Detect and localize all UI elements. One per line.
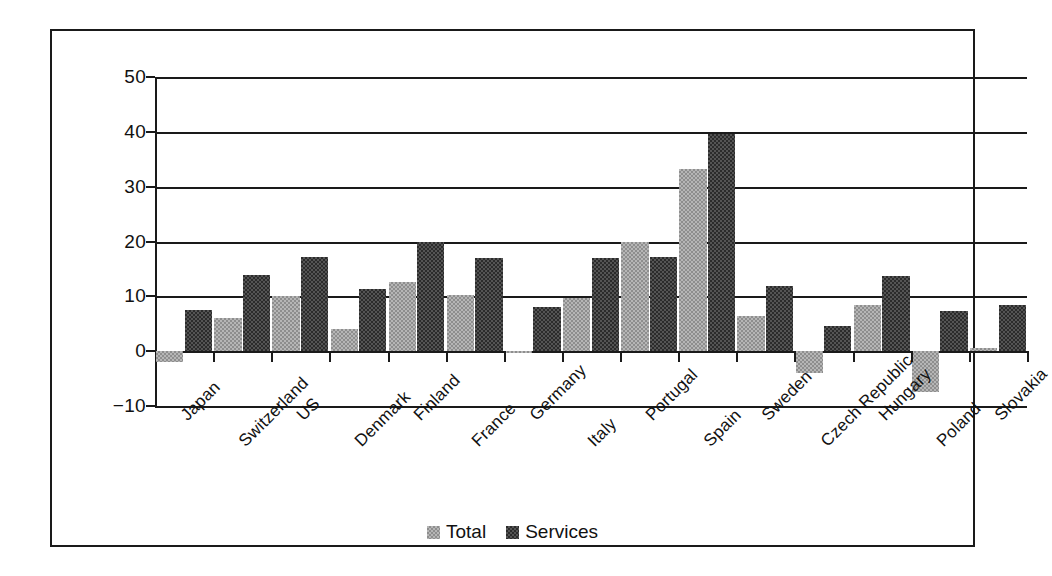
- bar-total[interactable]: [621, 242, 648, 351]
- bar-total[interactable]: [214, 318, 241, 351]
- y-axis-tick-label: 20: [124, 231, 146, 253]
- y-axis-tick-label: 0: [135, 340, 146, 362]
- y-axis-tick-mark: [146, 295, 155, 297]
- bar-total[interactable]: [679, 169, 706, 351]
- x-axis-label-spain: Spain: [700, 406, 746, 452]
- y-axis-tick-mark: [146, 241, 155, 243]
- x-axis-tick-mark: [736, 351, 738, 362]
- bar-services[interactable]: [475, 258, 502, 351]
- bar-services[interactable]: [359, 289, 386, 352]
- x-axis-label-italy: Italy: [584, 414, 621, 451]
- bar-total[interactable]: [272, 296, 299, 351]
- bar-services[interactable]: [301, 257, 328, 351]
- x-axis-tick-mark: [678, 351, 680, 362]
- chart-frame: 50403020100−10 JapanSwitzerlandUSDenmark…: [50, 29, 975, 547]
- bar-total[interactable]: [447, 295, 474, 351]
- x-axis-tick-mark: [853, 351, 855, 362]
- bar-total[interactable]: [737, 316, 764, 351]
- y-axis-tick-mark: [146, 131, 155, 133]
- x-axis-category-labels: JapanSwitzerlandUSDenmarkFinlandFranceGe…: [155, 411, 1027, 521]
- y-axis-tick-label: 50: [124, 66, 146, 88]
- bar-services[interactable]: [417, 242, 444, 351]
- x-axis-tick-mark: [794, 351, 796, 362]
- x-axis-tick-mark: [562, 351, 564, 362]
- bar-services[interactable]: [243, 275, 270, 351]
- x-axis-tick-mark: [388, 351, 390, 362]
- bar-services[interactable]: [592, 258, 619, 351]
- bar-services[interactable]: [708, 134, 735, 351]
- x-axis-tick-mark: [969, 351, 971, 362]
- legend-label: Total: [446, 521, 486, 543]
- legend-label: Services: [525, 521, 598, 543]
- y-axis-tick-label: −10: [113, 395, 146, 417]
- y-axis-tick-mark: [146, 350, 155, 352]
- bar-services[interactable]: [940, 311, 967, 351]
- bar-total[interactable]: [563, 298, 590, 351]
- y-axis-tick-mark: [146, 186, 155, 188]
- y-axis-tick-mark: [146, 76, 155, 78]
- x-axis-tick-mark: [1027, 351, 1029, 362]
- legend-swatch-services: [506, 526, 519, 539]
- bar-total[interactable]: [389, 282, 416, 352]
- y-axis-tick-label: 40: [124, 121, 146, 143]
- x-axis-tick-mark: [213, 351, 215, 362]
- bar-total[interactable]: [331, 329, 358, 351]
- bar-total[interactable]: [854, 305, 881, 351]
- bar-services[interactable]: [533, 307, 560, 351]
- y-axis-tick-labels: 50403020100−10: [102, 77, 146, 406]
- y-axis-tick-mark: [146, 405, 155, 407]
- chart-legend: TotalServices: [52, 521, 973, 543]
- bar-services[interactable]: [824, 326, 851, 351]
- bar-services[interactable]: [185, 310, 212, 351]
- legend-entry-services[interactable]: Services: [506, 521, 598, 543]
- bar-services[interactable]: [766, 286, 793, 351]
- x-axis-tick-mark: [329, 351, 331, 362]
- legend-swatch-total: [427, 526, 440, 539]
- x-axis-tick-mark: [271, 351, 273, 362]
- bar-services[interactable]: [650, 257, 677, 351]
- bar-services[interactable]: [882, 276, 909, 351]
- bar-services[interactable]: [999, 305, 1026, 352]
- y-axis-tick-label: 10: [124, 285, 146, 307]
- x-axis-tick-mark: [446, 351, 448, 362]
- y-axis-tick-label: 30: [124, 176, 146, 198]
- legend-entry-total[interactable]: Total: [427, 521, 486, 543]
- x-axis-tick-mark: [504, 351, 506, 362]
- x-axis-tick-mark: [620, 351, 622, 362]
